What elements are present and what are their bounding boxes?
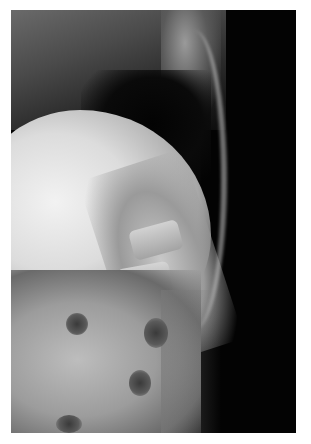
pelvis-edge (161, 290, 221, 433)
xray-image (11, 10, 296, 433)
radiolucent-spot (66, 313, 88, 335)
radiolucent-spot (144, 318, 168, 348)
radiolucent-spot (129, 370, 151, 396)
radiolucent-spot (56, 415, 82, 433)
